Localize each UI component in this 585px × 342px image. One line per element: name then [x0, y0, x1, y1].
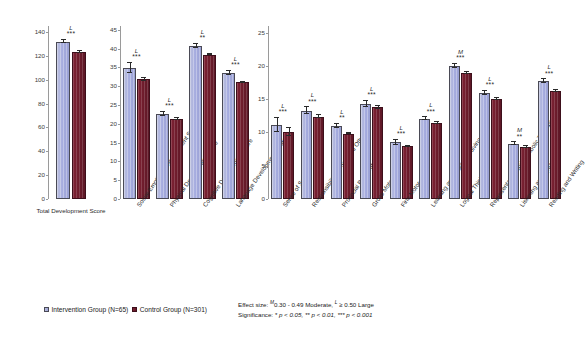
- error-bar-cap: [494, 97, 499, 98]
- y-axis-tick-label: 20: [97, 121, 117, 127]
- error-bar-cap: [286, 127, 291, 128]
- error-bar-cap: [422, 116, 427, 117]
- y-axis-tick: [46, 199, 48, 200]
- x-axis-label: Total Development Score: [36, 207, 106, 215]
- error-bar: [277, 118, 278, 133]
- bar-group: [222, 26, 249, 199]
- y-axis-tick: [46, 151, 48, 152]
- significance-stars: ***: [385, 131, 417, 136]
- error-bar-cap: [405, 146, 410, 147]
- bar-group: [538, 26, 561, 199]
- bar-intervention: [156, 114, 169, 199]
- bar-group: [360, 26, 383, 199]
- bar-intervention: [56, 42, 70, 199]
- chart-panel-domain-scores: 051015202530354045L***Social-Emotional D…: [100, 8, 256, 308]
- y-axis-tick: [266, 132, 268, 133]
- error-bar-cap: [77, 52, 82, 53]
- error-bar-cap: [393, 139, 398, 140]
- bar-intervention: [479, 93, 490, 199]
- footnote-significance-body: * p < 0.05, ** p < 0.01, *** p < 0.001: [275, 311, 373, 318]
- y-axis-tick-label: 25: [245, 30, 265, 36]
- y-axis-tick: [266, 99, 268, 100]
- y-axis-tick: [46, 32, 48, 33]
- error-bar-cap: [511, 141, 516, 142]
- error-bar-cap: [207, 54, 212, 55]
- significance-annotation: L***: [296, 93, 328, 104]
- bar-intervention: [360, 104, 371, 199]
- error-bar-cap: [316, 114, 321, 115]
- significance-stars: ***: [55, 31, 87, 36]
- legend-entry-control: Control Group (N=301): [132, 306, 207, 313]
- legend-swatch-control-icon: [132, 307, 137, 312]
- footnote-effect-size-end: ≥ 0.50 Large: [337, 301, 373, 308]
- y-axis-tick-label: 5: [97, 177, 117, 183]
- y-axis-tick-label: 0: [25, 196, 45, 202]
- error-bar-cap: [193, 43, 198, 44]
- significance-annotation: M***: [444, 50, 476, 61]
- error-bar-cap: [482, 90, 487, 91]
- significance-stars: ***: [474, 82, 506, 87]
- error-bar-cap: [61, 42, 66, 43]
- significance-stars: **: [187, 35, 219, 40]
- y-axis-tick: [118, 105, 120, 106]
- bar-control: [72, 52, 86, 199]
- bar-intervention: [508, 144, 519, 199]
- y-axis-tick-label: 140: [25, 29, 45, 35]
- chart-panel-total-development: 020406080100120140L***Total Development …: [20, 8, 98, 308]
- error-bar-cap: [523, 147, 528, 148]
- footnote-effect-size-prefix: Effect size:: [238, 301, 270, 308]
- y-axis-tick: [266, 166, 268, 167]
- error-bar-cap: [434, 123, 439, 124]
- error-bar-cap: [141, 80, 146, 81]
- error-bar-cap: [286, 135, 291, 136]
- significance-stars: ***: [267, 109, 299, 114]
- legend-label-control: Control Group (N=301): [140, 306, 207, 313]
- significance-stars: **: [504, 134, 536, 139]
- y-axis-tick-label: 0: [97, 196, 117, 202]
- bar-intervention: [419, 119, 430, 200]
- error-bar-cap: [541, 78, 546, 79]
- significance-stars: ***: [154, 103, 186, 108]
- error-bar-cap: [334, 123, 339, 124]
- chart-panel-subscale-scores: 0510152025L***Sense of SelfL***Responsib…: [248, 8, 568, 308]
- bar-group: [189, 26, 216, 199]
- error-bar-cap: [61, 39, 66, 40]
- error-bar-cap: [226, 70, 231, 71]
- significance-annotation: L***: [385, 126, 417, 137]
- error-bar-cap: [494, 99, 499, 100]
- significance-stars: **: [326, 115, 358, 120]
- legend-swatch-intervention-icon: [44, 307, 49, 312]
- bar-intervention: [390, 142, 401, 199]
- y-axis-tick-label: 40: [25, 148, 45, 154]
- significance-stars: ***: [356, 92, 388, 97]
- bar-group: [156, 26, 183, 199]
- chart-footnotes: Effect size: M0.30 - 0.49 Moderate, L ≥ …: [238, 298, 374, 319]
- error-bar-cap: [553, 91, 558, 92]
- y-axis-tick: [266, 66, 268, 67]
- error-bar-cap: [511, 144, 516, 145]
- error-bar-cap: [274, 117, 279, 118]
- y-axis-tick: [118, 180, 120, 181]
- error-bar-cap: [141, 77, 146, 78]
- error-bar-cap: [77, 50, 82, 51]
- bar-intervention: [271, 125, 282, 199]
- error-bar-cap: [363, 106, 368, 107]
- bar-intervention: [301, 111, 312, 199]
- y-axis-tick-label: 45: [97, 27, 117, 33]
- legend-entry-intervention: Intervention Group (N=65): [44, 306, 128, 313]
- bar-intervention: [331, 126, 342, 199]
- error-bar-cap: [226, 74, 231, 75]
- bar-group: [508, 26, 531, 199]
- y-axis-tick: [118, 124, 120, 125]
- footnote-effect-size: Effect size: M0.30 - 0.49 Moderate, L ≥ …: [238, 298, 374, 310]
- y-axis-tick-label: 60: [25, 124, 45, 130]
- error-bar-cap: [541, 82, 546, 83]
- y-axis-tick-label: 20: [245, 63, 265, 69]
- bar-group: [390, 26, 413, 199]
- significance-annotation: M**: [504, 128, 536, 139]
- error-bar-cap: [240, 82, 245, 83]
- y-axis-tick: [46, 80, 48, 81]
- bar-control: [550, 91, 561, 199]
- y-axis-tick-label: 15: [97, 140, 117, 146]
